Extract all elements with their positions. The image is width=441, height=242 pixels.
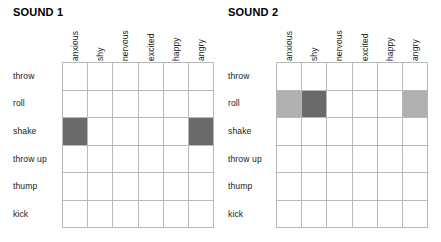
column-header-angry: angry	[189, 14, 214, 62]
matrix-row	[63, 118, 214, 146]
matrix-cell-shake-anxious[interactable]	[63, 118, 88, 146]
matrix-cell-shake-excited[interactable]	[139, 118, 164, 146]
matrix-cell-thump-angry[interactable]	[403, 173, 428, 201]
matrix-cell-roll-anxious[interactable]	[277, 91, 302, 119]
matrix-cell-throw-angry[interactable]	[189, 63, 214, 91]
matrix-cell-kick-happy[interactable]	[164, 201, 189, 229]
column-header-shy: shy	[301, 14, 326, 62]
sound-2-row-labels: throw roll shake throw up thump kick	[228, 62, 276, 228]
matrix-cell-throw-happy[interactable]	[164, 63, 189, 91]
matrix-cell-throw-shy[interactable]	[302, 63, 327, 91]
matrix-cell-throw-up-excited[interactable]	[353, 146, 378, 174]
matrix-cell-shake-shy[interactable]	[88, 118, 113, 146]
matrix-cell-thump-excited[interactable]	[353, 173, 378, 201]
matrix-row	[277, 146, 428, 174]
matrix-cell-kick-excited[interactable]	[353, 201, 378, 229]
matrix-cell-throw-anxious[interactable]	[277, 63, 302, 91]
row-label-kick: kick	[228, 200, 276, 228]
matrix-cell-throw-nervous[interactable]	[113, 63, 138, 91]
matrix-cell-throw-up-happy[interactable]	[164, 146, 189, 174]
matrix-cell-roll-angry[interactable]	[403, 91, 428, 119]
matrix-cell-throw-nervous[interactable]	[327, 63, 352, 91]
matrix-cell-kick-nervous[interactable]	[113, 201, 138, 229]
matrix-cell-roll-excited[interactable]	[353, 91, 378, 119]
matrix-cell-shake-shy[interactable]	[302, 118, 327, 146]
column-header-label: happy	[384, 37, 394, 61]
matrix-cell-kick-happy[interactable]	[378, 201, 403, 229]
matrix-cell-shake-nervous[interactable]	[327, 118, 352, 146]
matrix-cell-kick-angry[interactable]	[403, 201, 428, 229]
row-label-throw-up: throw up	[13, 145, 61, 173]
matrix-cell-roll-happy[interactable]	[378, 91, 403, 119]
matrix-cell-kick-excited[interactable]	[139, 201, 164, 229]
matrix-cell-throw-up-shy[interactable]	[302, 146, 327, 174]
matrix-cell-throw-excited[interactable]	[139, 63, 164, 91]
matrix-cell-roll-angry[interactable]	[189, 91, 214, 119]
matrix-cell-throw-anxious[interactable]	[63, 63, 88, 91]
column-header-happy: happy	[377, 14, 402, 62]
sound-2-grid[interactable]	[276, 62, 428, 228]
matrix-row	[63, 201, 214, 229]
matrix-cell-roll-shy[interactable]	[302, 91, 327, 119]
matrix-cell-thump-shy[interactable]	[88, 173, 113, 201]
matrix-cell-shake-excited[interactable]	[353, 118, 378, 146]
column-header-label: shy	[308, 47, 318, 61]
matrix-cell-thump-happy[interactable]	[378, 173, 403, 201]
matrix-cell-throw-up-anxious[interactable]	[277, 146, 302, 174]
matrix-cell-shake-angry[interactable]	[189, 118, 214, 146]
matrix-cell-roll-anxious[interactable]	[63, 91, 88, 119]
matrix-cell-kick-shy[interactable]	[302, 201, 327, 229]
matrix-cell-thump-nervous[interactable]	[113, 173, 138, 201]
matrix-cell-thump-nervous[interactable]	[327, 173, 352, 201]
matrix-cell-throw-up-nervous[interactable]	[113, 146, 138, 174]
matrix-cell-roll-nervous[interactable]	[113, 91, 138, 119]
matrix-cell-thump-anxious[interactable]	[277, 173, 302, 201]
matrix-cell-shake-nervous[interactable]	[113, 118, 138, 146]
sound-1-grid[interactable]	[62, 62, 214, 228]
matrix-cell-roll-nervous[interactable]	[327, 91, 352, 119]
matrix-cell-throw-up-excited[interactable]	[139, 146, 164, 174]
matrix-cell-shake-anxious[interactable]	[277, 118, 302, 146]
matrix-cell-shake-happy[interactable]	[164, 118, 189, 146]
matrix-cell-kick-shy[interactable]	[88, 201, 113, 229]
row-label-shake: shake	[13, 117, 61, 145]
matrix-cell-shake-happy[interactable]	[378, 118, 403, 146]
sound-emotion-matrix-board: SOUND 1 anxious shy nervous excited happ…	[0, 0, 441, 242]
matrix-cell-thump-excited[interactable]	[139, 173, 164, 201]
column-header-nervous: nervous	[113, 14, 138, 62]
matrix-cell-kick-anxious[interactable]	[63, 201, 88, 229]
matrix-cell-shake-angry[interactable]	[403, 118, 428, 146]
matrix-cell-throw-angry[interactable]	[403, 63, 428, 91]
sound-2-panel: SOUND 2 anxious shy nervous excited happ…	[220, 0, 440, 242]
row-label-throw: throw	[228, 62, 276, 90]
matrix-cell-thump-shy[interactable]	[302, 173, 327, 201]
matrix-cell-thump-anxious[interactable]	[63, 173, 88, 201]
column-header-excited: excited	[352, 14, 377, 62]
matrix-cell-thump-angry[interactable]	[189, 173, 214, 201]
matrix-cell-throw-up-shy[interactable]	[88, 146, 113, 174]
matrix-cell-throw-shy[interactable]	[88, 63, 113, 91]
row-label-thump: thump	[228, 173, 276, 201]
matrix-row	[277, 118, 428, 146]
matrix-cell-throw-excited[interactable]	[353, 63, 378, 91]
matrix-cell-thump-happy[interactable]	[164, 173, 189, 201]
matrix-cell-kick-anxious[interactable]	[277, 201, 302, 229]
matrix-cell-throw-up-happy[interactable]	[378, 146, 403, 174]
matrix-cell-throw-up-angry[interactable]	[189, 146, 214, 174]
column-header-label: excited	[359, 33, 369, 61]
row-label-roll: roll	[13, 90, 61, 118]
row-label-thump: thump	[13, 173, 61, 201]
matrix-row	[63, 173, 214, 201]
matrix-row	[277, 173, 428, 201]
matrix-cell-throw-happy[interactable]	[378, 63, 403, 91]
matrix-cell-throw-up-nervous[interactable]	[327, 146, 352, 174]
matrix-cell-roll-happy[interactable]	[164, 91, 189, 119]
column-header-label: anxious	[283, 31, 293, 61]
matrix-cell-throw-up-angry[interactable]	[403, 146, 428, 174]
matrix-cell-roll-shy[interactable]	[88, 91, 113, 119]
matrix-cell-kick-angry[interactable]	[189, 201, 214, 229]
matrix-cell-throw-up-anxious[interactable]	[63, 146, 88, 174]
matrix-cell-roll-excited[interactable]	[139, 91, 164, 119]
row-label-kick: kick	[13, 200, 61, 228]
matrix-cell-kick-nervous[interactable]	[327, 201, 352, 229]
